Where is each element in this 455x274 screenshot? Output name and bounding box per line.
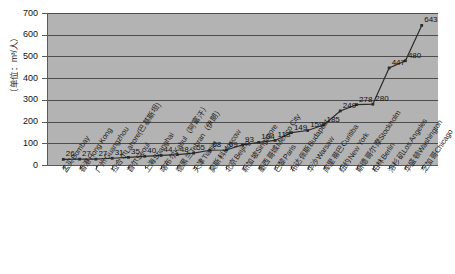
- data-point-marker: [388, 67, 391, 70]
- y-tick-label: 100: [10, 139, 38, 148]
- y-tick-label: 600: [10, 30, 38, 39]
- y-tick-label: 500: [10, 52, 38, 61]
- data-value-label: 643: [424, 16, 437, 24]
- data-value-label: 249: [343, 102, 356, 110]
- y-tick-label: 200: [10, 117, 38, 126]
- data-point-marker: [420, 24, 423, 27]
- data-value-label: 480: [408, 52, 421, 60]
- data-value-label: 280: [375, 95, 388, 103]
- y-tick-label: 300: [10, 95, 38, 104]
- data-value-label: 278: [359, 96, 372, 104]
- y-tick-label: 700: [10, 9, 38, 18]
- data-value-label: 447: [392, 59, 405, 67]
- y-tick-label: 400: [10, 74, 38, 83]
- data-point-marker: [339, 110, 342, 113]
- y-tick-label: 0: [10, 161, 38, 170]
- data-point-marker: [62, 158, 65, 161]
